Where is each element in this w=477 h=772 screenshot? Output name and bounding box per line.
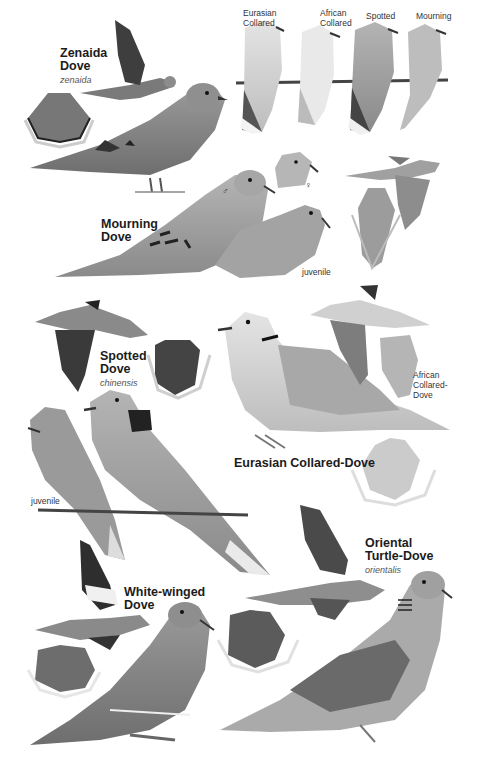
species-name-line2: Dove [60, 60, 107, 73]
scientific-name: chinensis [100, 378, 147, 388]
perched-african-collared [298, 25, 340, 125]
species-name-line2: Dove [100, 363, 147, 376]
label-line1: African [413, 370, 448, 380]
white-winged-dove-tail [28, 645, 100, 697]
perched-label-line1: Eurasian [243, 8, 277, 18]
species-label-mourning-dove: Mourning Dove [101, 218, 158, 244]
perched-label-line1: Mourning [416, 11, 451, 21]
species-name-line2: Dove [101, 231, 158, 244]
species-name-line2: Turtle-Dove [365, 550, 434, 563]
label-line2: Collared- [413, 380, 448, 390]
juvenile-label-spotted: juvenile [31, 496, 60, 506]
species-label-zenaida-dove: Zenaida Dove zenaida [60, 47, 107, 85]
species-label-oriental-turtle-dove: Oriental Turtle-Dove orientalis [365, 537, 434, 575]
perched-label-line2: Collared [243, 18, 277, 28]
species-name: Eurasian Collared-Dove [234, 457, 375, 470]
oriental-turtle-dove-flying [245, 505, 385, 620]
species-label-white-winged-dove: White-winged Dove [124, 586, 205, 612]
label-line3: Dove [413, 390, 448, 400]
perched-label-african-collared: African Collared [320, 8, 352, 28]
species-label-eurasian-collared-dove: Eurasian Collared-Dove [234, 457, 375, 470]
spotted-dove-tail [148, 340, 210, 398]
perched-label-spotted: Spotted [366, 11, 395, 21]
juvenile-label-mourning: juvenile [302, 267, 331, 277]
dove-illustrations [0, 0, 477, 772]
mourning-dove-tail [352, 188, 400, 268]
eurasian-collared-dove-tail [352, 438, 435, 505]
perched-spotted [348, 22, 398, 135]
perched-label-eurasian-collared: Eurasian Collared [243, 8, 277, 28]
perched-label-line1: Spotted [366, 11, 395, 21]
perched-label-mourning: Mourning [416, 11, 451, 21]
zenaida-dove-tail [25, 93, 93, 147]
oriental-turtle-dove-tail [218, 610, 298, 672]
african-collared-dove-label: African Collared- Dove [413, 370, 448, 400]
species-name-line2: Dove [124, 599, 205, 612]
field-guide-plate: Zenaida Dove zenaida Eurasian Collared A… [0, 0, 477, 772]
perched-eurasian-collared [240, 20, 284, 134]
scientific-name: orientalis [365, 565, 434, 575]
species-label-spotted-dove: Spotted Dove chinensis [100, 350, 147, 388]
scientific-name: zenaida [60, 75, 107, 85]
perched-label-line2: Collared [320, 18, 352, 28]
female-symbol: ♀ [305, 180, 312, 190]
perched-mourning [400, 24, 446, 130]
perched-label-line1: African [320, 8, 352, 18]
male-symbol: ♂ [222, 186, 229, 196]
